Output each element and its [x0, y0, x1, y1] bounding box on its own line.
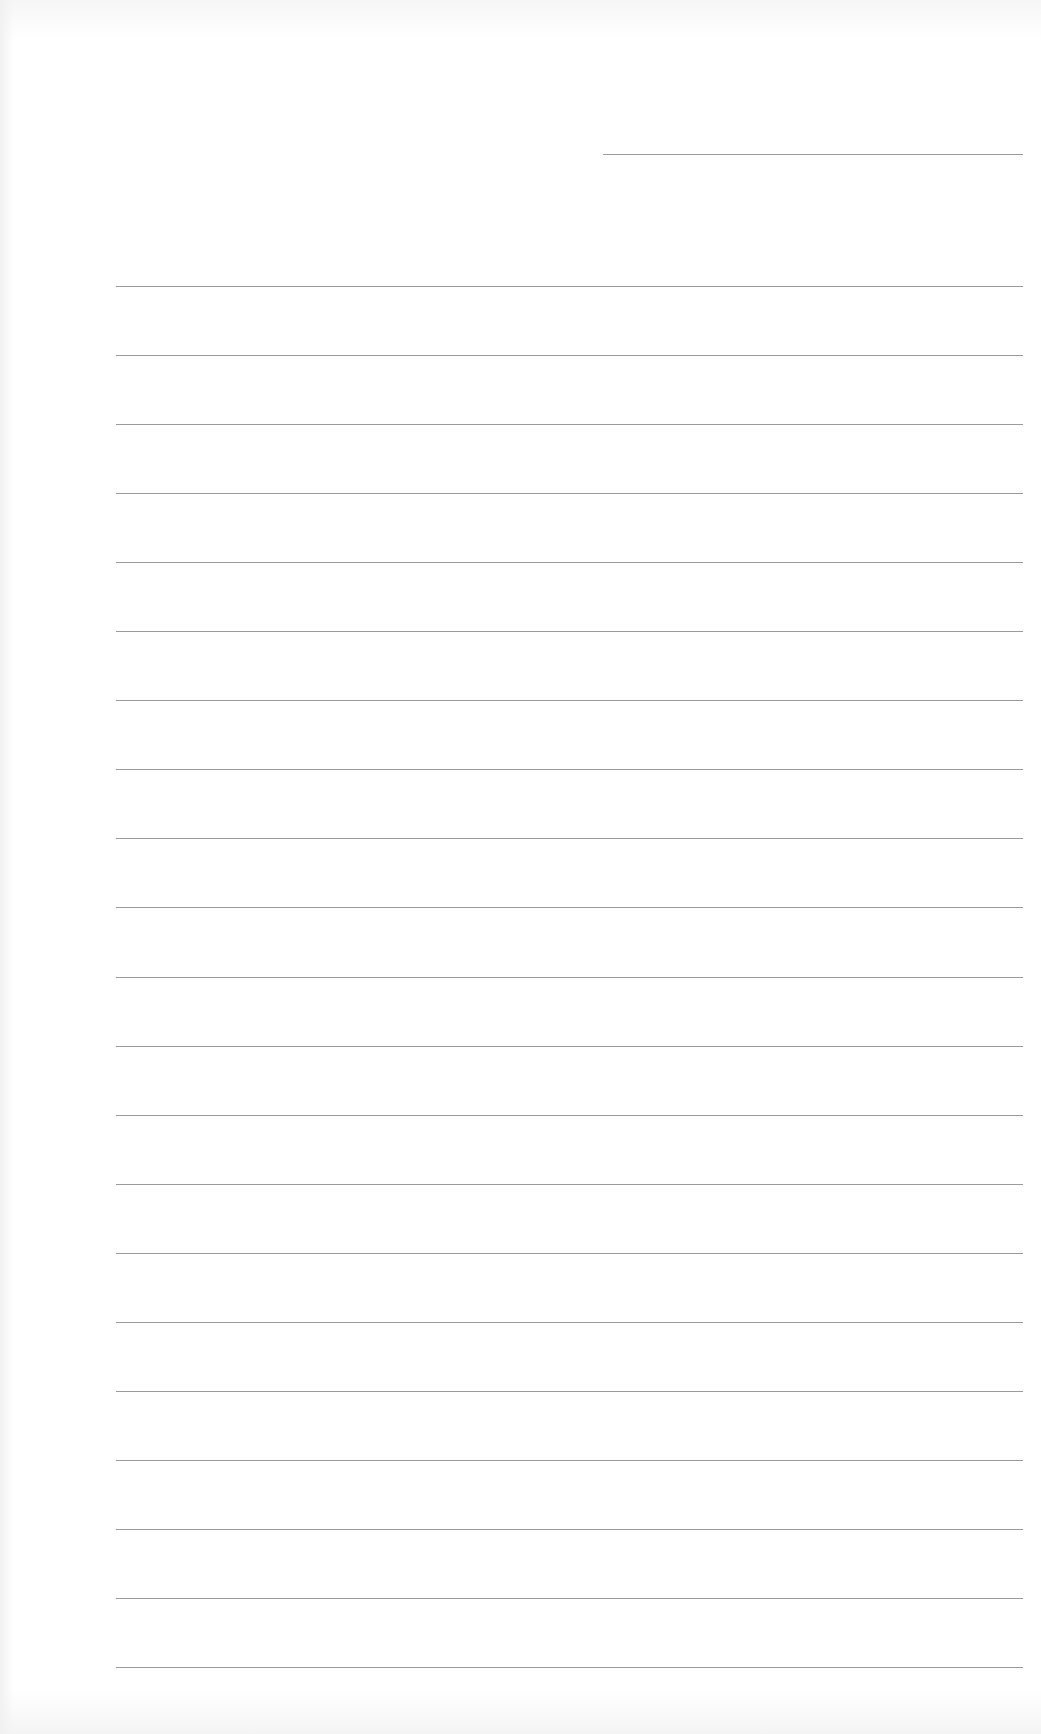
- ruled-line: [116, 1598, 1023, 1599]
- ruled-line: [116, 1529, 1023, 1530]
- lined-paper-page: [0, 0, 1041, 1734]
- line-text[interactable]: [116, 607, 1023, 629]
- ruled-line: [116, 1115, 1023, 1116]
- line-text[interactable]: [116, 1160, 1023, 1182]
- line-text[interactable]: [116, 538, 1023, 560]
- paper-edge-shadow: [0, 0, 14, 1734]
- ruled-line: [116, 1667, 1023, 1668]
- line-text[interactable]: [116, 469, 1023, 491]
- line-text[interactable]: [116, 1367, 1023, 1389]
- line-text[interactable]: [116, 1505, 1023, 1527]
- line-text[interactable]: [116, 1574, 1023, 1596]
- ruled-line: [116, 769, 1023, 770]
- ruled-line: [116, 424, 1023, 425]
- ruled-line: [116, 1460, 1023, 1461]
- title-rule: [603, 154, 1023, 155]
- line-text[interactable]: [116, 331, 1023, 353]
- ruled-line: [116, 1046, 1023, 1047]
- title-field[interactable]: [603, 130, 1023, 152]
- line-text[interactable]: [116, 883, 1023, 905]
- ruled-line: [116, 977, 1023, 978]
- line-text[interactable]: [116, 953, 1023, 975]
- ruled-line: [116, 1184, 1023, 1185]
- line-text[interactable]: [116, 1091, 1023, 1113]
- ruled-line: [116, 562, 1023, 563]
- ruled-line: [116, 1253, 1023, 1254]
- ruled-line: [116, 1322, 1023, 1323]
- line-text[interactable]: [116, 1298, 1023, 1320]
- ruled-line: [116, 1391, 1023, 1392]
- ruled-line: [116, 838, 1023, 839]
- ruled-line: [116, 631, 1023, 632]
- ruled-line: [116, 286, 1023, 287]
- line-text[interactable]: [116, 1229, 1023, 1251]
- line-text[interactable]: [116, 676, 1023, 698]
- line-text[interactable]: [116, 262, 1023, 284]
- line-text[interactable]: [116, 1022, 1023, 1044]
- line-text[interactable]: [116, 1436, 1023, 1458]
- ruled-line: [116, 700, 1023, 701]
- line-text[interactable]: [116, 814, 1023, 836]
- ruled-line: [116, 907, 1023, 908]
- line-text[interactable]: [116, 745, 1023, 767]
- ruled-line: [116, 493, 1023, 494]
- line-text[interactable]: [116, 400, 1023, 422]
- ruled-line: [116, 355, 1023, 356]
- line-text[interactable]: [116, 1643, 1023, 1665]
